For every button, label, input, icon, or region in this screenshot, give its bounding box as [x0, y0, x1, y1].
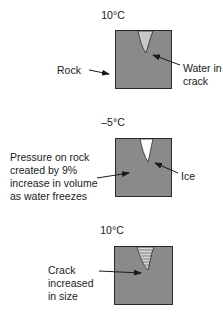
label-ice: Ice	[181, 170, 195, 183]
rock-block-stage-3	[115, 247, 173, 305]
temperature-stage-1: 10°C	[83, 9, 143, 21]
label-pressure-line2: created by 9%	[10, 164, 77, 177]
label-pressure-line4: as water freezes	[10, 190, 87, 203]
label-rock: Rock	[57, 64, 81, 77]
label-crack-line1: Crack	[48, 264, 75, 277]
rock-block-stage-2	[116, 139, 172, 197]
label-water-line2: crack	[183, 75, 208, 88]
temperature-stage-2: –5°C	[83, 116, 143, 128]
label-water-line1: Water in	[183, 62, 222, 75]
rock-block-stage-1	[116, 31, 172, 89]
label-crack-line3: in size	[48, 290, 78, 303]
rock-arrow	[89, 70, 109, 74]
temperature-stage-3: 10°C	[82, 224, 142, 236]
label-crack-line2: increased	[48, 277, 94, 290]
label-pressure-line3: increase in volume	[10, 177, 98, 190]
label-pressure-line1: Pressure on rock	[10, 151, 89, 164]
